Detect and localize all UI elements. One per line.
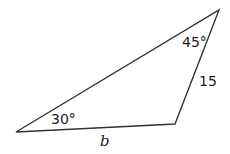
angle-label-top: 45° — [182, 34, 207, 50]
side-label-bottom: b — [100, 132, 110, 150]
triangle-diagram: 30° 45° 15 b — [0, 0, 230, 154]
side-label-right: 15 — [199, 73, 217, 89]
angle-label-left: 30° — [51, 111, 76, 127]
triangle-shape — [16, 10, 219, 132]
